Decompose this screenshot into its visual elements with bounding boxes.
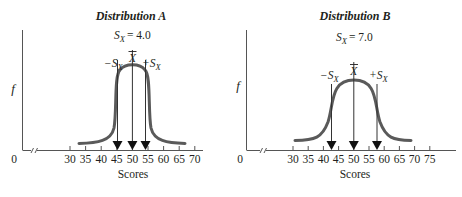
svg-text:55: 55 <box>363 153 375 165</box>
distribution-a-x-axis <box>23 146 204 153</box>
figure: Distribution A SX= 4.0 f <box>0 0 462 197</box>
distribution-a-minus-sd-label: −SX <box>104 57 124 72</box>
svg-text:65: 65 <box>173 153 185 165</box>
distribution-a-title: Distribution A <box>95 9 167 23</box>
arrow-down-icon <box>113 141 123 150</box>
distribution-a-sd-annotation: SX= 4.0 <box>114 29 151 44</box>
svg-text:55: 55 <box>142 153 154 165</box>
distribution-a-x-label: Scores <box>118 168 149 180</box>
distribution-b-panel: Distribution B SX= 7.0 f <box>236 9 456 180</box>
svg-text:60: 60 <box>378 153 390 165</box>
svg-text:40: 40 <box>318 153 330 165</box>
distribution-b-minus-sd-label: −SX <box>320 69 340 84</box>
svg-text:60: 60 <box>158 153 170 165</box>
svg-text:35: 35 <box>80 153 92 165</box>
distribution-a-mean-label: X <box>128 52 137 65</box>
svg-text:50: 50 <box>348 153 360 165</box>
svg-text:30: 30 <box>64 153 76 165</box>
svg-text:35: 35 <box>302 153 314 165</box>
svg-text:40: 40 <box>95 153 107 165</box>
arrow-down-icon <box>349 141 359 150</box>
distribution-b-sd-annotation: SX= 7.0 <box>336 31 373 46</box>
svg-text:30: 30 <box>287 153 299 165</box>
distribution-b-title: Distribution B <box>318 9 390 23</box>
distribution-b-tick-labels: 30 35 40 45 50 55 60 65 70 75 <box>287 153 436 165</box>
distribution-b-origin-label: 0 <box>237 153 243 165</box>
distribution-b-y-label: f <box>236 78 242 93</box>
distribution-a-origin-label: 0 <box>11 153 17 165</box>
svg-text:45: 45 <box>333 153 345 165</box>
axis-break-icon <box>31 148 34 153</box>
svg-text:75: 75 <box>424 153 436 165</box>
svg-text:70: 70 <box>409 153 421 165</box>
axis-break-icon <box>260 148 263 153</box>
distribution-a-panel: Distribution A SX= 4.0 f <box>11 9 203 180</box>
distribution-b-curve <box>295 80 411 141</box>
svg-text:X: X <box>128 52 137 64</box>
arrow-down-icon <box>372 141 382 150</box>
svg-text:65: 65 <box>394 153 406 165</box>
distribution-a-tick-labels: 30 35 40 45 50 55 60 65 70 <box>64 153 201 165</box>
svg-text:X: X <box>349 65 358 77</box>
distribution-a-y-label: f <box>11 81 17 96</box>
arrow-down-icon <box>327 141 337 150</box>
distribution-b-x-axis <box>247 146 457 153</box>
svg-text:50: 50 <box>127 153 139 165</box>
arrow-down-icon <box>141 141 151 150</box>
distribution-b-mean-label: X <box>349 65 358 78</box>
distribution-b-x-label: Scores <box>340 168 371 180</box>
svg-text:70: 70 <box>189 153 201 165</box>
svg-text:45: 45 <box>111 153 123 165</box>
arrow-down-icon <box>127 141 137 150</box>
distribution-b-plus-sd-label: +SX <box>369 69 389 84</box>
